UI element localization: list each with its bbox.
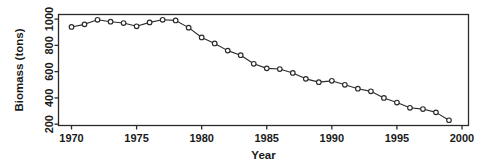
data-point-marker xyxy=(121,21,126,26)
data-point-marker xyxy=(238,53,243,58)
data-point-marker xyxy=(304,77,309,82)
data-point-marker xyxy=(186,25,191,30)
x-tick-label: 2000 xyxy=(450,132,474,144)
x-axis-tick-labels: 1970197519801985199019952000 xyxy=(59,132,474,144)
data-point-marker xyxy=(277,67,282,72)
data-series-line xyxy=(72,20,449,121)
data-point-marker xyxy=(160,17,165,22)
data-point-marker xyxy=(343,82,348,87)
data-point-marker xyxy=(199,35,204,40)
y-axis-tick-labels: 2004006008001000 xyxy=(43,7,55,134)
x-tick-label: 1990 xyxy=(320,132,344,144)
chart-canvas: 2004006008001000 19701975198019851990199… xyxy=(0,0,494,168)
data-point-marker xyxy=(290,71,295,76)
data-point-marker xyxy=(421,107,426,112)
y-axis-title: Biomass (tons) xyxy=(13,28,25,111)
data-point-marker xyxy=(82,22,87,27)
data-point-marker xyxy=(251,61,256,66)
data-point-marker xyxy=(395,100,400,105)
data-series-markers xyxy=(69,17,451,122)
data-point-marker xyxy=(225,48,230,53)
data-point-marker xyxy=(408,105,413,110)
x-tick-label: 1970 xyxy=(59,132,83,144)
data-point-marker xyxy=(173,18,178,23)
data-point-marker xyxy=(108,19,113,24)
y-tick-label: 800 xyxy=(43,36,55,54)
x-axis-title: Year xyxy=(251,149,276,161)
data-point-marker xyxy=(95,17,100,22)
data-point-marker xyxy=(330,79,335,84)
x-tick-label: 1985 xyxy=(255,132,279,144)
data-point-marker xyxy=(69,25,74,30)
data-point-marker xyxy=(369,89,374,94)
y-tick-label: 600 xyxy=(43,62,55,80)
plot-frame xyxy=(59,15,469,126)
data-point-marker xyxy=(147,20,152,25)
data-point-marker xyxy=(447,118,452,123)
data-point-marker xyxy=(434,110,439,115)
data-point-marker xyxy=(212,41,217,46)
y-tick-label: 200 xyxy=(43,115,55,133)
y-tick-label: 1000 xyxy=(43,7,55,31)
y-tick-label: 400 xyxy=(43,89,55,107)
data-point-marker xyxy=(134,24,139,29)
series-polyline xyxy=(72,20,449,121)
x-tick-label: 1995 xyxy=(385,132,409,144)
data-point-marker xyxy=(317,80,322,85)
data-point-marker xyxy=(382,96,387,101)
x-tick-label: 1975 xyxy=(124,132,148,144)
data-point-marker xyxy=(264,66,269,71)
biomass-year-line-chart: 2004006008001000 19701975198019851990199… xyxy=(0,0,494,168)
data-point-marker xyxy=(356,86,361,91)
plot-border xyxy=(59,15,469,126)
x-tick-label: 1980 xyxy=(189,132,213,144)
